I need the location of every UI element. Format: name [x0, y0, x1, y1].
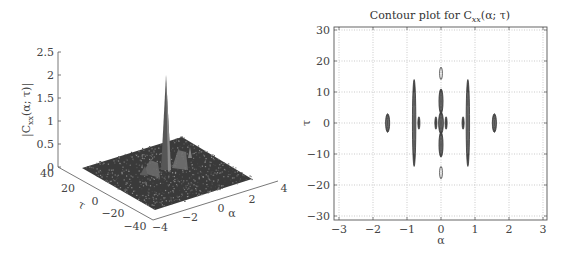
contour-x-ticks: −3−2−10123: [331, 27, 547, 236]
contour-x-tick-label: −1: [399, 223, 415, 236]
surface-plot: 00.511.522.5 40200−20−40 −4−2024 |Cxx(α;…: [20, 46, 288, 234]
contour-feature: [418, 117, 420, 129]
contour-x-tick-label: 3: [540, 223, 547, 236]
contour-y-tick-label: −20: [307, 179, 330, 192]
alpha-tick-label: 0: [218, 202, 225, 215]
tau-tick-label: −40: [123, 220, 146, 233]
contour-y-tick-label: 20: [316, 55, 330, 68]
contour-y-tick-label: −10: [307, 148, 330, 161]
contour-y-tick-label: 0: [323, 117, 330, 130]
contour-y-tick-label: 30: [316, 24, 330, 37]
contour-title: Contour plot for Cxx(α; τ): [370, 9, 510, 24]
contour-x-tick-label: 1: [472, 223, 479, 236]
z-tick-label: 0.5: [37, 138, 55, 151]
contour-feature: [435, 117, 437, 129]
alpha-tick-label: −4: [152, 221, 168, 234]
z-tick-label: 1: [47, 115, 54, 128]
contour-x-tick-label: −3: [331, 223, 347, 236]
contour-x-label: α: [437, 234, 445, 247]
z-tick-label: 2.5: [37, 46, 55, 59]
tau-axis-label: τ: [76, 198, 88, 212]
z-axis-label: |Cxx(α; τ)|: [20, 83, 35, 137]
contour-y-tick-label: −30: [307, 210, 330, 223]
alpha-axis-label: α: [228, 207, 236, 220]
tau-tick-label: 0: [92, 195, 99, 208]
tau-tick-label: 40: [40, 167, 54, 180]
figure: 00.511.522.5 40200−20−40 −4−2024 |Cxx(α;…: [0, 0, 570, 254]
tau-tick-label: −20: [101, 207, 124, 220]
contour-y-tick-label: 10: [316, 86, 330, 99]
contour-feature: [445, 117, 447, 129]
alpha-tick-label: 2: [249, 193, 256, 206]
contour-y-ticks: 3020100−10−20−30: [307, 24, 547, 223]
contour-feature: [462, 117, 464, 129]
z-tick-label: 2: [47, 69, 54, 82]
tau-tick-label: 20: [61, 182, 75, 195]
contour-y-label: τ: [300, 120, 313, 126]
z-tick-label: 1.5: [37, 92, 55, 105]
contour-x-tick-label: 2: [506, 223, 513, 236]
contour-x-tick-label: −2: [365, 223, 381, 236]
alpha-tick-label: 4: [281, 182, 288, 195]
alpha-tick-label: −2: [182, 211, 198, 224]
contour-plot: Contour plot for Cxx(α; τ) −3−2−10123 30…: [300, 9, 547, 247]
z-ticks: 00.511.522.5: [37, 46, 62, 174]
